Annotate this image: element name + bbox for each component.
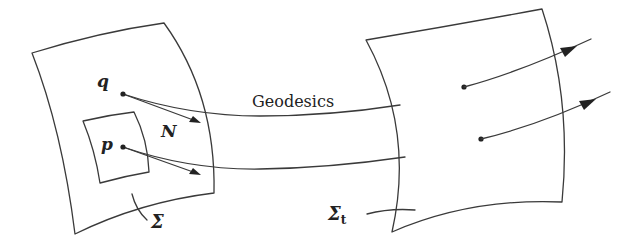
- geodesic-flow-diagram: q p N Geodesics Σ Σt: [0, 0, 640, 248]
- arrowhead-icon: [189, 168, 201, 175]
- initial-surface: [32, 23, 214, 234]
- label-q: q: [97, 71, 109, 91]
- label-geodesics: Geodesics: [252, 92, 334, 111]
- label-p: p: [101, 134, 113, 154]
- label-normal: N: [160, 121, 178, 141]
- point-p: [120, 144, 125, 149]
- arrowhead-icon: [579, 99, 596, 110]
- label-sigma: Σ: [150, 211, 164, 232]
- sigma-t-pointer: [367, 210, 415, 215]
- arrowhead-icon: [560, 46, 577, 57]
- arrowhead-icon: [189, 116, 201, 123]
- evolved-surface: [366, 9, 565, 232]
- neighborhood-patch: [83, 112, 149, 183]
- label-sigma-t: Σt: [327, 203, 347, 227]
- evolved-normal-vectors: [461, 39, 610, 142]
- point-q: [120, 91, 125, 96]
